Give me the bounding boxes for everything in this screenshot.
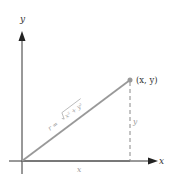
x-axis-label: x bbox=[159, 156, 164, 166]
point-label-text: (x, y) bbox=[136, 75, 158, 85]
x-axis-arrow-icon bbox=[148, 158, 158, 165]
y-axis-arrow-icon bbox=[19, 31, 26, 41]
radius-formula-prefix: r = bbox=[46, 120, 59, 133]
x-leg-label: x bbox=[77, 165, 82, 174]
y-axis-label: y bbox=[19, 14, 26, 24]
point-label: (x, y) bbox=[136, 75, 158, 85]
polar-coordinates-diagram: y x (x, y) x y r = x² + y² bbox=[0, 0, 173, 183]
y-leg-label: y bbox=[132, 117, 138, 126]
point-marker bbox=[128, 78, 133, 83]
radius-line bbox=[22, 80, 130, 161]
